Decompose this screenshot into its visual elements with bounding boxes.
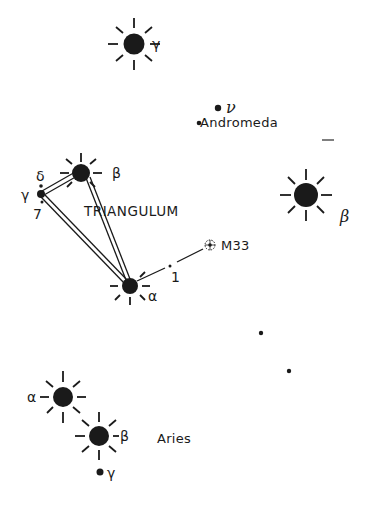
sun-star-icon — [40, 371, 86, 423]
star-label: α — [27, 389, 36, 405]
dot-star-icon — [287, 369, 291, 373]
dot-star-icon — [215, 105, 221, 111]
sun-star-icon — [75, 412, 119, 460]
galaxy-m33: M33 — [205, 238, 250, 253]
star-label: γ — [107, 465, 115, 481]
star-triangulum-1: 1 — [169, 265, 180, 286]
sun-star-icon — [280, 169, 332, 221]
dot-star-icon — [259, 331, 263, 335]
star-andromeda-beta: β — [280, 169, 349, 226]
dot-star-icon — [37, 190, 45, 198]
star-triangulum-delta: δ — [36, 168, 45, 188]
star-chart: γ β β — [0, 0, 370, 505]
dot-star-icon — [169, 265, 172, 268]
star-label: γ — [152, 36, 160, 52]
star-triangulum-alpha: α — [110, 272, 157, 305]
star-aries-gamma: γ — [97, 465, 116, 481]
constellation-label-andromeda: Andromeda — [200, 115, 278, 130]
dot-star-icon — [41, 201, 44, 204]
constellation-label-aries: Aries — [157, 431, 191, 446]
star-label: 1 — [171, 269, 180, 285]
star-aries-beta: β — [75, 412, 129, 460]
galaxy-icon — [205, 240, 215, 250]
galaxy-label: M33 — [221, 238, 250, 253]
star-triangulum-gamma: γ — [21, 187, 45, 203]
star-andromeda-gamma: γ — [108, 18, 160, 70]
star-label: γ — [21, 187, 29, 203]
star-triangulum-7: 7 — [33, 201, 44, 223]
star-label: δ — [36, 168, 45, 184]
constellation-label-triangulum: TRIANGULUM — [83, 203, 179, 219]
star-label: β — [112, 165, 121, 181]
sun-star-icon — [110, 272, 150, 305]
star-aries-alpha: α — [27, 371, 86, 423]
star-label: β — [339, 207, 349, 226]
star-label: α — [148, 288, 157, 304]
star-triangulum-beta: β — [60, 153, 121, 187]
dot-star-icon — [39, 184, 43, 188]
star-label: β — [120, 428, 129, 444]
star-label: 7 — [33, 206, 42, 222]
dot-star-icon — [97, 469, 104, 476]
triangulum-lines — [41, 171, 203, 285]
